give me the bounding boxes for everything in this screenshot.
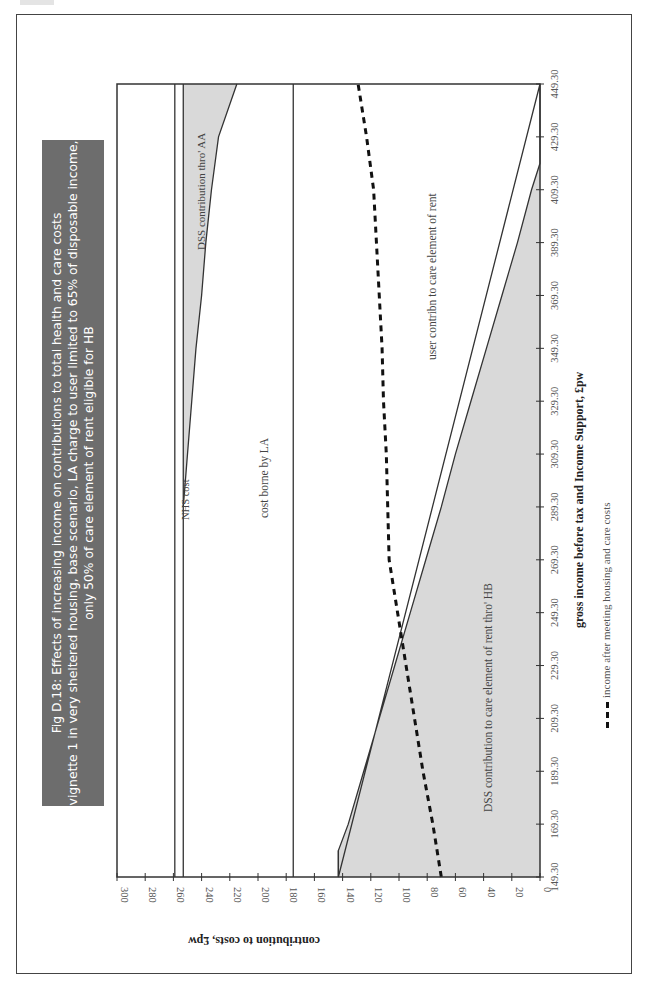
value-axis-tick-label: 220	[232, 887, 243, 903]
legend-text-wrapper: income after meeting housing and care co…	[600, 503, 612, 729]
legend-label: income after meeting housing and care co…	[600, 503, 612, 699]
value-axis-tick-label: 60	[457, 887, 468, 898]
legend-dash-swatch	[606, 702, 609, 728]
income-axis-tick-label: 209.30	[549, 704, 560, 733]
income-axis-tick-label: 389.30	[549, 228, 560, 257]
income-axis-tick-label: 409.30	[549, 175, 560, 204]
income-axis-tick-label: 269.30	[549, 545, 560, 574]
income-axis-tick-label: 189.30	[549, 757, 560, 786]
income-axis-tick-label: 149.30	[549, 863, 560, 892]
income-axis-tick-label: 449.30	[549, 70, 560, 99]
income-axis-tick-label: 369.30	[549, 281, 560, 310]
chart-plot: 0204060801001201401601802002202402602803…	[0, 0, 645, 988]
value-axis-tick-label: 260	[175, 887, 186, 903]
label-aa: DSS contribution thro' AA	[195, 133, 207, 250]
y-axis-title: contribution to costs, £pw	[188, 933, 320, 948]
value-axis-tick-label: 240	[204, 887, 215, 903]
income-axis-tick-label: 249.30	[549, 598, 560, 627]
income-axis-tick-label: 289.30	[549, 492, 560, 521]
value-axis-tick-label: 280	[147, 887, 158, 903]
aa-area	[183, 84, 237, 507]
label-hb: DSS contribution to care element of rent…	[482, 583, 494, 812]
value-axis-tick-label: 20	[514, 887, 525, 898]
income-axis-tick-label: 229.30	[549, 651, 560, 680]
income-axis-tick-label: 309.30	[549, 440, 560, 469]
value-axis-tick-label: 300	[119, 887, 130, 903]
label-nhs-cost: NHS cost	[180, 479, 191, 520]
value-axis-tick-label: 160	[316, 887, 327, 903]
income-axis-tick-label: 429.30	[549, 122, 560, 151]
value-axis-tick-label: 40	[486, 887, 497, 898]
income-axis-tick-label: 349.30	[549, 334, 560, 363]
x-axis-title: gross income before tax and Income Suppo…	[572, 372, 587, 628]
label-user-contrib: user contribn to care element of rent	[426, 193, 438, 360]
value-axis-tick-label: 120	[373, 887, 384, 903]
value-axis-tick-label: 140	[345, 887, 356, 903]
value-axis-tick-label: 80	[429, 887, 440, 898]
value-axis-tick-label: 100	[401, 887, 412, 903]
income-axis-tick-label: 169.30	[549, 810, 560, 839]
label-la: cost borne by LA	[258, 438, 270, 518]
value-axis-tick-label: 200	[260, 887, 271, 903]
value-axis-tick-label: 180	[288, 887, 299, 903]
income-axis-tick-label: 329.30	[549, 387, 560, 416]
